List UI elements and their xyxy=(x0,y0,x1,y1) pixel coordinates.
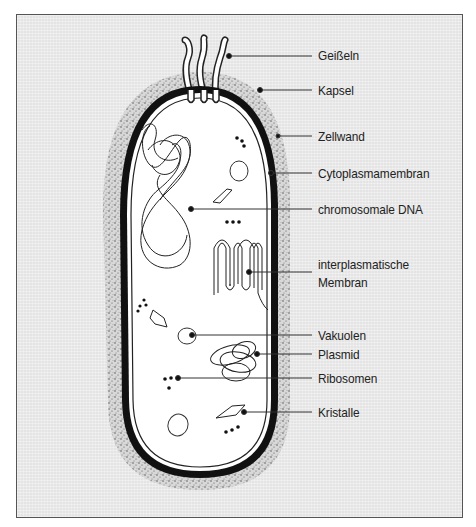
label-vakuolen: Vakuolen xyxy=(318,328,366,343)
label-chromosomale-dna: chromosomale DNA xyxy=(318,202,423,217)
flagella-base xyxy=(188,90,219,103)
label-kristalle: Kristalle xyxy=(318,405,359,420)
label-membran: Membran xyxy=(318,275,368,290)
label-geisseln: Geißeln xyxy=(318,48,359,63)
label-ribosomen: Ribosomen xyxy=(318,371,377,386)
label-kapsel: Kapsel xyxy=(318,83,354,98)
label-cytoplasmamembran: Cytoplasmamembran xyxy=(318,166,429,181)
label-zellwand: Zellwand xyxy=(318,129,365,144)
label-plasmid: Plasmid xyxy=(318,347,360,362)
label-interplasmatische: interplasmatische xyxy=(318,257,409,272)
vacuole-top xyxy=(230,161,248,181)
